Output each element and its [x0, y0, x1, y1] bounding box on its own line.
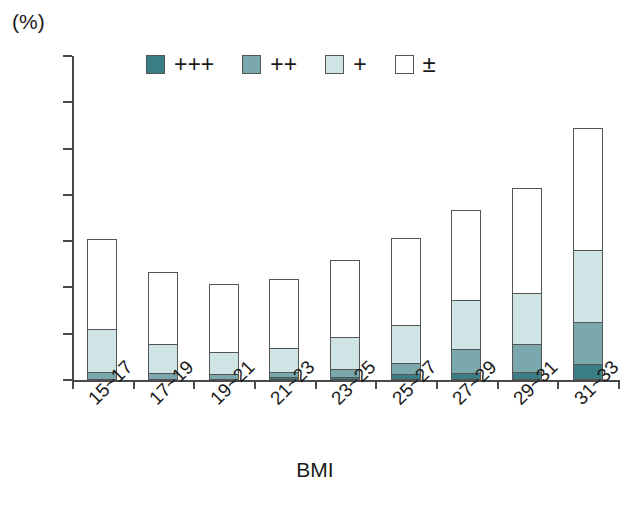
bar-segment[interactable] [574, 322, 602, 365]
x-axis-tick [133, 380, 135, 389]
y-axis-tick [63, 194, 72, 196]
bar-stack[interactable] [573, 128, 603, 380]
y-axis-tick [63, 101, 72, 103]
x-axis-tick [497, 380, 499, 389]
x-axis-tick [436, 380, 438, 389]
bar-stack[interactable] [451, 210, 481, 380]
y-axis-tick [63, 55, 72, 57]
y-axis-tick [63, 148, 72, 150]
x-axis-title: BMI [0, 458, 630, 482]
bar-group[interactable] [512, 56, 542, 380]
bar-group[interactable] [330, 56, 360, 380]
legend-swatch [146, 55, 165, 74]
x-axis-tick [193, 380, 195, 389]
legend-item[interactable]: + [325, 53, 366, 76]
legend-swatch [395, 55, 414, 74]
y-axis-tick [63, 379, 72, 381]
x-axis-tick [72, 380, 74, 389]
legend-swatch [325, 55, 344, 74]
legend-item[interactable]: +++ [146, 53, 214, 76]
bar-segment[interactable] [331, 337, 359, 368]
y-axis-tick [63, 240, 72, 242]
x-axis-tick [557, 380, 559, 389]
bar-group[interactable] [451, 56, 481, 380]
plot-area: 05101520253035 [72, 56, 618, 380]
bar-stack[interactable] [330, 260, 360, 380]
legend-label: +++ [174, 53, 214, 76]
y-axis-tick [63, 286, 72, 288]
bar-segment[interactable] [452, 300, 480, 349]
legend-label: ++ [270, 53, 297, 76]
legend-label: + [353, 53, 366, 76]
bar-segment[interactable] [574, 250, 602, 321]
bar-group[interactable] [87, 56, 117, 380]
bar-group[interactable] [573, 56, 603, 380]
legend-item[interactable]: ± [395, 52, 436, 76]
x-axis-tick [254, 380, 256, 389]
bar-segment[interactable] [513, 293, 541, 344]
legend-item[interactable]: ++ [242, 53, 297, 76]
legend-label: ± [423, 52, 436, 76]
y-axis-line [72, 56, 74, 380]
y-axis-unit-label: (%) [12, 10, 45, 34]
figure-caption [8, 489, 448, 515]
x-axis-tick [375, 380, 377, 389]
bmi-stacked-bar-chart: (%) 05101520253035 15~1717~1919~2121~232… [0, 0, 630, 515]
bar-group[interactable] [391, 56, 421, 380]
x-axis-tick [618, 380, 620, 389]
bar-stack[interactable] [391, 238, 421, 380]
x-axis-tick [315, 380, 317, 389]
legend-swatch [242, 55, 261, 74]
bar-segment[interactable] [392, 325, 420, 363]
chart-legend: ++++++± [146, 52, 436, 76]
bar-group[interactable] [269, 56, 299, 380]
bar-group[interactable] [209, 56, 239, 380]
bar-group[interactable] [148, 56, 178, 380]
y-axis-tick [63, 333, 72, 335]
bar-stack[interactable] [87, 239, 117, 380]
bar-stack[interactable] [512, 188, 542, 380]
